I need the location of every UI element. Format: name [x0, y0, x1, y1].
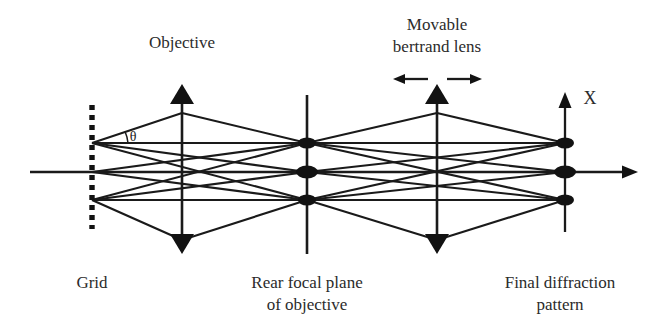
bertrand-label-line1: Movable [407, 15, 467, 34]
focal-spot-center [296, 166, 318, 179]
move-right-arrow [447, 74, 482, 84]
figure-canvas: θ Objective Movable bertrand lens X Grid… [0, 0, 664, 328]
bertrand-move-arrows [393, 74, 482, 84]
rear-focal-label-line1: Rear focal plane [251, 273, 362, 292]
final-pattern-label-line1: Final diffraction [505, 273, 616, 292]
diffraction-spot-center [554, 166, 576, 179]
rear-focal-label-line2: of objective [267, 295, 348, 314]
rear-focal-plane [296, 95, 318, 254]
move-left-arrow [393, 74, 428, 84]
focal-spot-upper [298, 138, 316, 149]
final-pattern-label-line2: pattern [536, 295, 584, 314]
final-diffraction-plane [554, 92, 576, 232]
theta-label: θ [130, 129, 137, 144]
diffraction-spot-lower [556, 195, 574, 206]
focal-spot-lower [298, 195, 316, 206]
diffraction-spot-upper [556, 138, 574, 149]
ray-diagram-svg: θ Objective Movable bertrand lens X Grid… [0, 0, 664, 328]
objective-label: Objective [149, 33, 215, 52]
grid-label: Grid [76, 273, 108, 292]
ray-bundle-grid-to-rearfocal [92, 113, 307, 240]
x-axis-label: X [584, 88, 597, 108]
bertrand-label-line2: bertrand lens [393, 37, 481, 56]
